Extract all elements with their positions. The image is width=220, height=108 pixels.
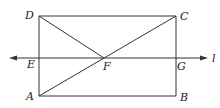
label-f: F [102,60,111,73]
label-g: G [177,60,186,73]
label-a: A [25,90,34,103]
label-l: l [212,52,216,65]
segment-ac [39,16,176,96]
arrow-left-icon [9,56,17,61]
geometry-diagram: D C E F G l A B [0,0,220,108]
arrow-right-icon [200,56,208,61]
segment-df [39,16,104,58]
label-e: E [26,58,35,71]
label-d: D [24,9,34,22]
label-c: C [180,10,189,23]
label-b: B [179,91,188,104]
